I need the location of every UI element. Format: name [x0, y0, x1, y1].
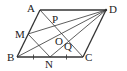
- label-c: C: [85, 51, 92, 63]
- label-o: O: [55, 35, 63, 47]
- side-cd: [83, 10, 106, 57]
- segment-nd: [50, 10, 106, 57]
- geometry-diagram: A D P M O Q B N C: [0, 0, 127, 71]
- label-d: D: [109, 3, 117, 15]
- label-b: B: [7, 51, 14, 63]
- label-n: N: [45, 58, 53, 70]
- label-p: P: [52, 13, 58, 25]
- point-d-dot: [105, 9, 107, 11]
- label-m: M: [15, 28, 25, 40]
- segment-mn: [28, 34, 50, 57]
- label-a: A: [27, 2, 35, 14]
- label-q: Q: [64, 40, 72, 52]
